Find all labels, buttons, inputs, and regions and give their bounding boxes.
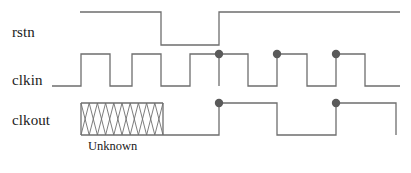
signal-trace-clkin	[52, 54, 400, 86]
edge-marker-dot	[215, 99, 223, 107]
edge-marker-dot	[215, 50, 223, 58]
waveform-clkout	[81, 99, 396, 135]
signal-label-clkin: clkin	[12, 72, 43, 89]
signal-trace-clkout	[163, 103, 396, 135]
edge-marker-dot	[332, 99, 340, 107]
signal-label-clkout: clkout	[12, 112, 50, 129]
signal-trace-rstn	[80, 12, 400, 45]
signal-label-rstn: rstn	[12, 24, 35, 41]
edge-marker-dot	[332, 50, 340, 58]
edge-marker-dot	[273, 50, 281, 58]
waveform-canvas	[0, 0, 411, 173]
waveform-rstn	[80, 12, 400, 45]
unknown-region-clkout	[81, 103, 163, 135]
timing-diagram-figure: rstn clkin clkout Unknown	[0, 0, 411, 173]
waveform-clkin	[52, 50, 400, 86]
unknown-region-label: Unknown	[88, 139, 137, 154]
